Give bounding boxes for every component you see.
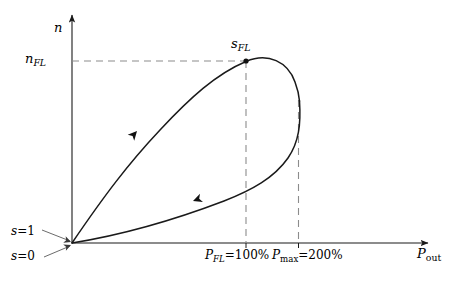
- slip-one-label: s=1: [11, 225, 35, 237]
- slip-zero-label: s=0: [11, 250, 35, 262]
- flow-arrow-lower-icon: [191, 194, 202, 205]
- s-fl-point-label: sFL: [231, 37, 250, 50]
- p-max-eq-text: =: [298, 248, 308, 262]
- s-one-leader-line: [42, 230, 70, 241]
- x-axis-sub-text: out: [426, 252, 441, 263]
- p-fl-eq-text: =: [225, 248, 235, 262]
- n-fl-sub-text: FL: [33, 57, 46, 68]
- y-axis-label: n: [54, 21, 62, 34]
- slip-zero-eq-text: =0: [17, 249, 35, 263]
- flow-arrow-upper-icon: [128, 128, 141, 141]
- s-zero-leader-arrow-icon: [63, 242, 72, 251]
- s-one-leader-arrow-icon: [63, 236, 72, 245]
- x-axis-label: Pout: [417, 247, 441, 260]
- figure-container: n nFL sFL s=1 s=0 PFL=100% Pmax=200% Pou…: [0, 0, 461, 284]
- p-fl-main-text: P: [205, 248, 213, 262]
- p-max-main-text: P: [272, 248, 280, 262]
- n-fl-tick-label: nFL: [25, 52, 46, 65]
- x-axis-main-text: P: [417, 246, 426, 261]
- x-tick-label-p-fl: PFL=100%: [205, 249, 269, 261]
- y-axis-label-text: n: [54, 20, 62, 35]
- s-zero-leader-line: [44, 246, 70, 257]
- s-fl-point-marker: [243, 58, 248, 63]
- x-tick-label-p-max: Pmax=200%: [272, 249, 343, 261]
- s-fl-main-text: s: [231, 36, 238, 51]
- s-fl-sub-text: FL: [238, 42, 251, 53]
- slip-one-eq-text: =1: [17, 224, 35, 238]
- p-fl-value-text: 100%: [235, 248, 269, 262]
- p-fl-sub-text: FL: [213, 254, 225, 264]
- curve-lower-branch: [72, 101, 300, 243]
- p-max-value-text: 200%: [308, 248, 342, 262]
- p-max-sub-text: max: [280, 254, 298, 264]
